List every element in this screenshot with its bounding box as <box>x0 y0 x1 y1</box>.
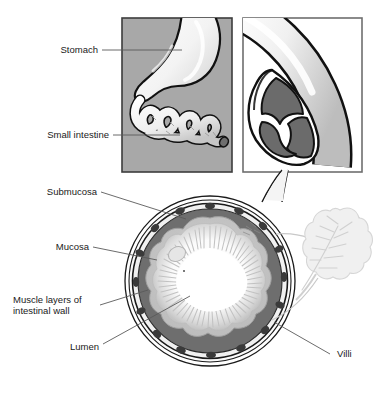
intestine-cutaway-panel <box>232 8 362 172</box>
label-muscle-layers-line2: intestinal wall <box>13 305 70 316</box>
figure-canvas: Stomach Small intestine Submucosa Mucosa… <box>0 0 387 393</box>
mucosa-layer <box>153 222 266 330</box>
intestinal-wall-cross-section <box>125 196 295 366</box>
stomach-and-small-intestine-panel <box>122 0 232 172</box>
anatomy-figure: Stomach Small intestine Submucosa Mucosa… <box>0 0 387 393</box>
label-mucosa: Mucosa <box>56 241 90 252</box>
label-lumen: Lumen <box>70 341 99 352</box>
label-small-intestine: Small intestine <box>47 129 109 140</box>
label-muscle-layers-line1: Muscle layers of <box>13 294 82 305</box>
mucosa-marker-dot <box>183 270 185 272</box>
label-stomach: Stomach <box>61 44 99 55</box>
label-submucosa: Submucosa <box>47 186 98 197</box>
label-villi: Villi <box>337 348 352 359</box>
